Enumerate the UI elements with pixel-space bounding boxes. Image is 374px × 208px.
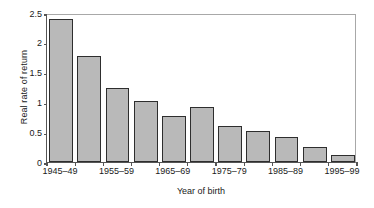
y-axis-tick-mark <box>44 44 48 45</box>
x-axis-tick-label: 1965–69 <box>155 166 190 177</box>
bar <box>303 147 327 162</box>
bar-chart-figure: Real rate of return 00.511.522.5 1945–49… <box>0 0 374 208</box>
bar <box>275 137 299 162</box>
bar <box>49 19 73 162</box>
x-axis-tick-label: 1975–79 <box>212 166 247 177</box>
x-axis-tick-mark <box>159 162 160 166</box>
x-axis-tick-labels: 1945–491955–591965–691975–791985–891995–… <box>46 166 356 180</box>
x-axis-tick-mark <box>187 162 188 166</box>
x-axis-tick-mark <box>300 162 301 166</box>
x-axis-tick-mark <box>46 162 47 166</box>
bar <box>134 101 158 162</box>
bar <box>246 131 270 162</box>
x-axis-tick-mark <box>75 162 76 166</box>
x-axis-tick-mark <box>272 162 273 166</box>
bar <box>331 155 355 162</box>
y-axis-tick-mark <box>44 14 48 15</box>
y-axis-tick-label: 2 <box>16 39 42 48</box>
x-axis-tick-label: 1945–49 <box>43 166 78 177</box>
y-axis-tick-label: 2.5 <box>16 10 42 19</box>
y-axis-tick-label: 1.5 <box>16 69 42 78</box>
y-axis-tick-label: 0.5 <box>16 129 42 138</box>
bar <box>218 126 242 162</box>
y-axis-tick-mark <box>44 74 48 75</box>
y-axis-tick-label: 1 <box>16 99 42 108</box>
x-axis-tick-label: 1955–59 <box>99 166 134 177</box>
y-axis-tick-mark <box>44 134 48 135</box>
bar-series <box>47 15 355 162</box>
y-axis-tick-mark <box>44 104 48 105</box>
plot-area <box>46 14 356 163</box>
x-axis-tick-mark <box>215 162 216 166</box>
bar <box>162 116 186 162</box>
y-axis-tick-labels: 00.511.522.5 <box>14 0 42 208</box>
x-axis-tick-mark <box>103 162 104 166</box>
bar <box>106 88 130 162</box>
bar <box>77 56 101 162</box>
x-axis-tick-label: 1995–99 <box>324 166 359 177</box>
x-axis-title: Year of birth <box>46 186 356 196</box>
x-axis-tick-mark <box>131 162 132 166</box>
bar <box>190 107 214 162</box>
x-axis-tick-mark <box>356 162 357 166</box>
x-axis-tick-mark <box>244 162 245 166</box>
x-axis-tick-mark <box>328 162 329 166</box>
x-axis-tick-label: 1985–89 <box>268 166 303 177</box>
y-axis-tick-label: 0 <box>16 159 42 168</box>
